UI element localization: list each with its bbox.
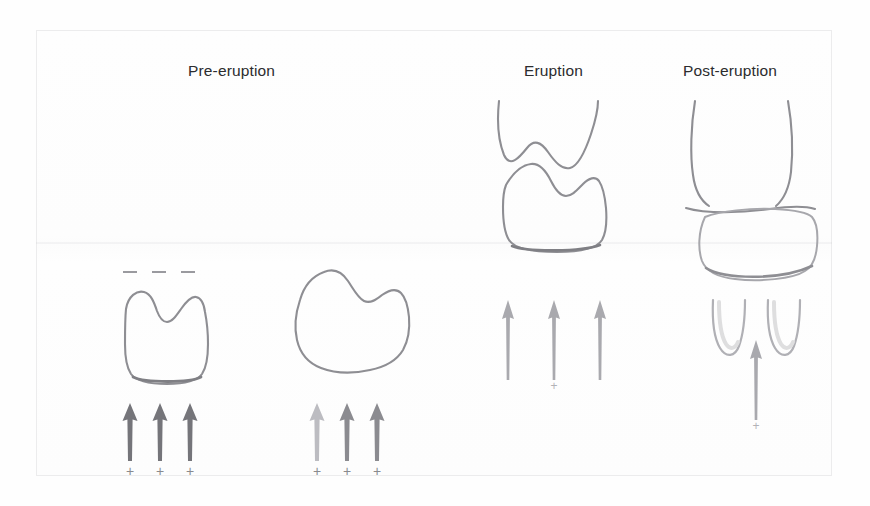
dental-eruption-figure: Pre-eruption Eruption Post-eruption [0, 0, 870, 506]
scan-seam-line [36, 242, 832, 244]
column-label-post-eruption: Post-eruption [683, 62, 777, 80]
column-label-eruption: Eruption [524, 62, 583, 80]
column-label-pre-eruption: Pre-eruption [188, 62, 275, 80]
page-frame-border [36, 30, 832, 476]
